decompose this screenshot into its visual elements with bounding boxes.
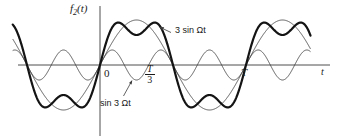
tick-label-t-over-3-denominator: 3	[145, 75, 155, 85]
y-axis-label: f2(t)	[70, 3, 87, 17]
annotation-sin-3-omega-t: sin 3 Ωt	[100, 99, 131, 108]
annotation-3-sin-omega-t: 3 sin Ωt	[175, 26, 206, 35]
tick-label-t-over-3: T 3	[145, 64, 155, 86]
x-axis-label: t	[321, 67, 324, 77]
origin-tick-label: 0	[104, 68, 110, 79]
y-axis-label-tail: (t)	[77, 2, 87, 14]
arrowhead-harmonic	[129, 80, 132, 85]
figure-waveform-superposition: f2(t) 0 T 3 T t 3 sin Ωt sin 3 Ωt	[0, 0, 337, 139]
tick-label-T: T	[241, 67, 247, 78]
plot-canvas	[0, 0, 337, 139]
